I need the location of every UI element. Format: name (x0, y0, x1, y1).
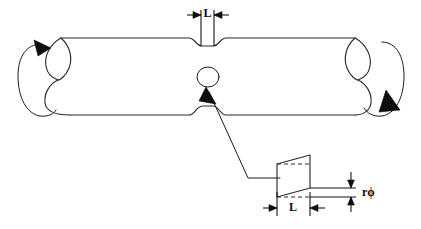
top-dimension-arrowhead-left (193, 12, 201, 19)
rphi-arrowhead-lower (348, 197, 355, 205)
shaft-bottom-profile (70, 106, 355, 115)
shaft-body (45, 38, 371, 115)
sheared-parallelogram (277, 155, 310, 197)
arrowhead-icon-left (34, 40, 51, 56)
shaft-right-end-outer-arc (355, 38, 370, 80)
arrowhead-icon-right (379, 90, 400, 112)
detail-horizontal-dimension-group: L (263, 192, 325, 216)
detail-length-label: L (289, 200, 297, 214)
top-dimension-label: L (203, 6, 211, 20)
torque-left-group (18, 40, 56, 116)
callout-leader-group (199, 87, 280, 178)
shaft-right-end-inner-arc (345, 38, 358, 80)
shaft-left-end-inner-arc (58, 38, 71, 80)
torsion-shaft-figure: Torsion of a circular shaft with a narro… (0, 0, 421, 229)
circle-marker-icon (197, 67, 219, 87)
shaft-left-end-outer-arc (46, 38, 61, 80)
rphi-arrowhead-upper (348, 180, 355, 188)
detail-vertical-dimension-group: rϕ (310, 172, 375, 212)
shear-offset-label: rϕ (362, 185, 375, 199)
shaft-right-end-lower-arc (355, 80, 371, 115)
detail-L-arrowhead-left (269, 205, 277, 212)
callout-leader-line (209, 92, 280, 178)
arrowhead-icon-callout (199, 87, 216, 104)
rotation-arrow-icon-left (18, 44, 56, 116)
shaft-top-profile (61, 38, 355, 46)
figure-canvas: Torsion of a circular shaft with a narro… (0, 0, 421, 229)
top-dimension-arrowhead-right (214, 12, 222, 19)
shear-element-detail: rϕ L (263, 155, 375, 216)
shaft-left-end-lower-arc (45, 80, 70, 115)
detail-L-arrowhead-right (310, 205, 318, 212)
